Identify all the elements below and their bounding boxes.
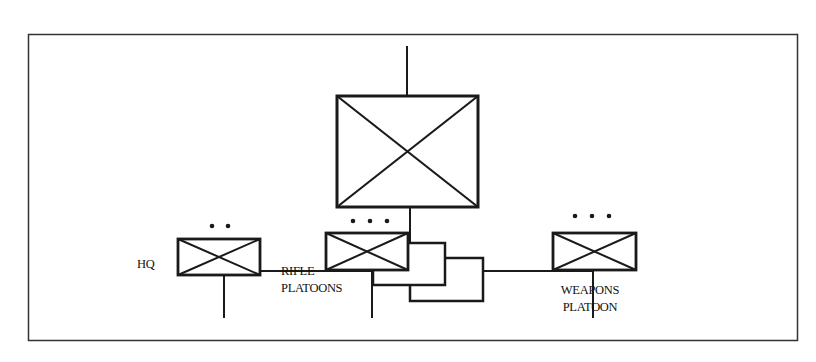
rifle-unit-symbol: [326, 233, 408, 270]
root-unit-symbol: [337, 96, 478, 207]
rifle-echelon-dots: [351, 219, 390, 224]
rifle-label-line2: PLATOONS: [281, 280, 342, 297]
org-chart-canvas: [0, 0, 816, 362]
weapons-echelon-dots: [573, 214, 612, 219]
weapons-label-line2: PLATOON: [550, 299, 630, 316]
weapons-unit-symbol: [553, 233, 636, 270]
weapons-label-line1: WEAPONS: [550, 282, 630, 299]
rifle-label-line1: RIFLE: [281, 263, 314, 280]
hq-echelon-dots: [210, 224, 231, 229]
hq-label: HQ: [137, 256, 154, 273]
hq-unit-symbol: [178, 239, 260, 275]
